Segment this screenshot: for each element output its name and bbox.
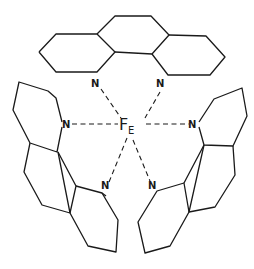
- nitrogen-label-right-upper: N: [188, 119, 196, 130]
- diagram-canvas: N N N N N N F E: [0, 0, 254, 269]
- nitrogen-label-top-right: N: [156, 78, 164, 89]
- iron-label-main: F: [119, 115, 128, 134]
- iron-label-sub: E: [128, 125, 134, 136]
- tris-phenanthroline-iron-structure: N N N N N N F E: [0, 0, 254, 269]
- nitrogen-label-right-lower: N: [148, 180, 156, 191]
- ligand-right-phenanthroline: [138, 88, 247, 253]
- nitrogen-label-top-left: N: [91, 78, 99, 89]
- nitrogen-label-left-lower: N: [101, 180, 109, 191]
- ligand-left-phenanthroline: [13, 82, 118, 252]
- nitrogen-label-left-upper: N: [62, 119, 70, 130]
- ligand-top-phenanthroline: [39, 16, 225, 75]
